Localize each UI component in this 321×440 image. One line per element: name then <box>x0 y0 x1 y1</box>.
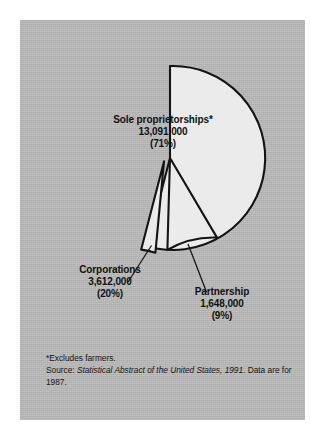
slice-label-partnership: Partnership 1,648,000 (9%) <box>154 286 290 321</box>
footnote-block: *Excludes farmers. Source: Statistical A… <box>46 352 294 388</box>
footnote-source-prefix: Source: <box>46 365 77 375</box>
slice-label-sole-percent: (71%) <box>68 138 258 150</box>
slice-label-sole-name: Sole proprietorships* <box>68 114 258 126</box>
figure-container: Sole proprietorships* 13,091,000 (71%) C… <box>0 0 321 440</box>
pie-chart-area: Sole proprietorships* 13,091,000 (71%) C… <box>20 20 305 420</box>
footnote-excludes: *Excludes farmers. <box>46 352 294 364</box>
footnote-source: Source: Statistical Abstract of the Unit… <box>46 364 294 388</box>
slice-label-sole-value: 13,091,000 <box>68 126 258 138</box>
slice-label-partnership-name: Partnership <box>154 286 290 298</box>
slice-label-partnership-value: 1,648,000 <box>154 298 290 310</box>
slice-label-sole-proprietorships: Sole proprietorships* 13,091,000 (71%) <box>68 114 258 149</box>
slice-label-partnership-percent: (9%) <box>154 310 290 322</box>
leader-line-partnership <box>188 244 207 292</box>
footnote-source-title: Statistical Abstract of the United State… <box>77 365 243 375</box>
slice-label-corporations-name: Corporations <box>42 264 178 276</box>
